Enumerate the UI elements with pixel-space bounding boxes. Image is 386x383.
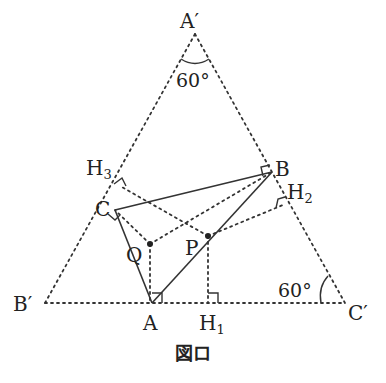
angle-label-top: 60° [176,69,210,91]
label-a-prime: A′ [179,9,199,33]
label-b: B [275,157,290,181]
label-a: A [142,311,158,335]
geometry-diagram: A′ B′ C′ A B C P Q H1 H2 H3 60° 60° 図ロ [0,0,386,383]
angle-label-bottom-right: 60° [278,279,312,301]
point-p [205,233,211,239]
diagram-svg: A′ B′ C′ A B C P Q H1 H2 H3 60° 60° 図ロ [0,0,386,383]
label-b-prime: B′ [13,292,33,316]
label-h1: H1 [199,311,225,337]
label-q: Q [126,243,142,267]
figure-caption: 図ロ [175,343,211,364]
angle-arc-top [181,59,209,64]
label-p: P [185,236,198,260]
label-c-prime: C′ [348,301,368,325]
label-h3: H3 [86,156,112,182]
point-q [147,241,153,247]
angle-arc-bottom-right [320,276,328,303]
label-c: C [95,197,110,221]
label-h2: H2 [287,180,313,206]
